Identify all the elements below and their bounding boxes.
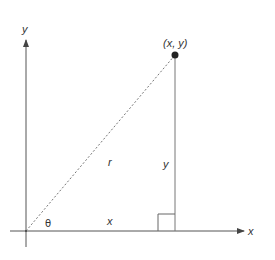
y-axis-label: y (21, 23, 29, 35)
hypotenuse-r-line (26, 55, 175, 231)
angle-theta-label: θ (45, 218, 51, 229)
vertical-leg-label: y (162, 158, 170, 170)
point-label: (x, y) (163, 37, 188, 49)
horizontal-leg-label: x (106, 215, 113, 227)
x-axis-label: x (247, 225, 254, 237)
hypotenuse-label: r (108, 156, 113, 168)
polar-coordinate-diagram: y x (x, y) r y x θ (0, 0, 275, 260)
origin-dot (25, 230, 27, 232)
right-angle-marker (158, 214, 175, 231)
point-dot (172, 52, 179, 59)
